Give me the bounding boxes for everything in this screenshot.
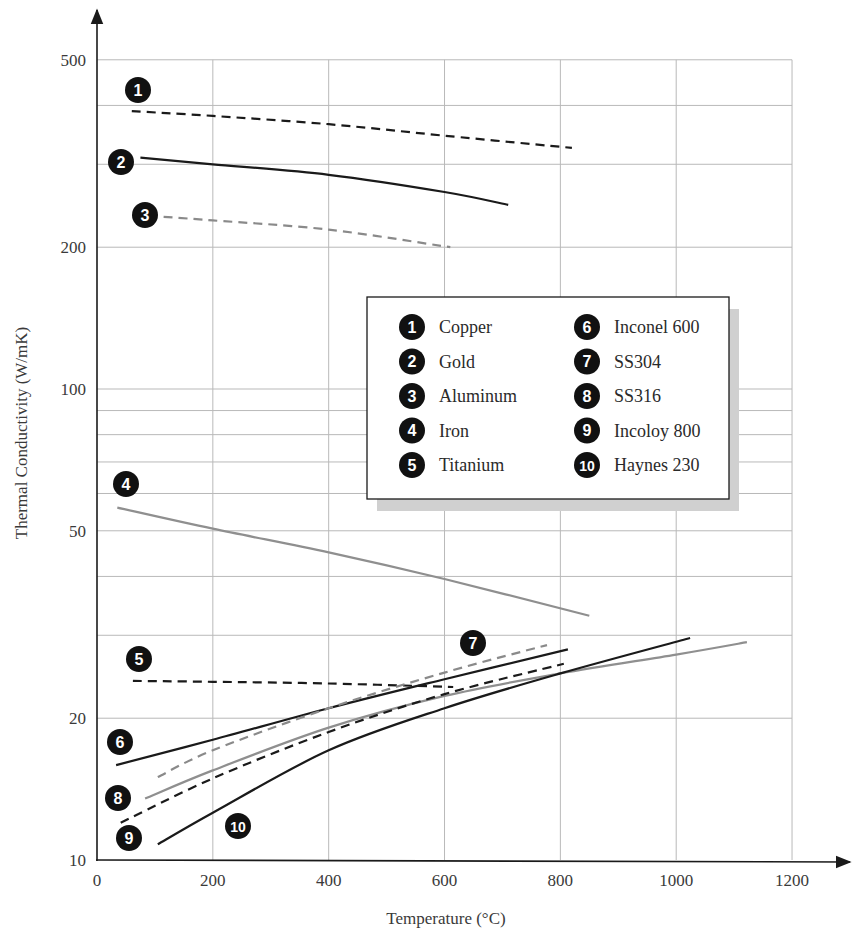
x-tick-label: 600: [432, 871, 458, 890]
x-axis: [96, 860, 850, 862]
legend-badge-4: 4: [399, 418, 425, 444]
x-tick-labels: 020040060080010001200: [93, 871, 809, 890]
series-line-incoloy-800: [121, 664, 564, 823]
y-tick-label: 20: [69, 709, 86, 728]
series-badge-2: 2: [108, 149, 134, 175]
legend-label: Titanium: [439, 455, 504, 475]
y-tick-labels: 102050100200500: [61, 51, 87, 870]
badge-number: 3: [408, 388, 417, 405]
legend-badge-3: 3: [399, 383, 425, 409]
badge-number: 4: [408, 422, 417, 439]
legend-item: 7SS304: [574, 349, 661, 375]
legend-badge-2: 2: [399, 349, 425, 375]
series-badge-8: 8: [105, 785, 131, 811]
badge-number: 3: [141, 207, 150, 224]
badge-number: 6: [116, 734, 125, 751]
badge-number: 7: [469, 635, 478, 652]
y-tick-label: 100: [61, 380, 87, 399]
series-badge-5: 5: [126, 646, 152, 672]
x-tick-label: 200: [200, 871, 226, 890]
badge-number: 2: [117, 154, 126, 171]
badge-number: 7: [583, 353, 592, 370]
series-line-inconel-600: [116, 649, 568, 765]
legend-label: Gold: [439, 352, 475, 372]
legend-item: 5Titanium: [399, 452, 504, 478]
legend-label: Aluminum: [439, 386, 517, 406]
legend-badge-8: 8: [574, 383, 600, 409]
badge-number: 5: [408, 457, 417, 474]
x-tick-label: 0: [93, 871, 102, 890]
x-tick-label: 1200: [775, 871, 809, 890]
x-tick-label: 400: [316, 871, 342, 890]
x-tick-label: 800: [548, 871, 574, 890]
series-badge-6: 6: [107, 729, 133, 755]
badge-number: 10: [230, 819, 246, 835]
series-line-ss304: [158, 645, 547, 777]
series-badge-1: 1: [125, 77, 151, 103]
series-line-titanium: [133, 681, 453, 687]
legend-item: 8SS316: [574, 383, 661, 409]
legend-badge-5: 5: [399, 452, 425, 478]
legend-label: Incoloy 800: [614, 421, 700, 441]
legend-item: 6Inconel 600: [574, 314, 699, 340]
legend-label: Inconel 600: [614, 317, 699, 337]
legend-item: 3Aluminum: [399, 383, 517, 409]
y-axis-title: Thermal Conductivity (W/mK): [12, 327, 31, 539]
series-line-iron: [117, 508, 589, 616]
series-line-aluminum: [164, 217, 451, 247]
x-tick-label: 1000: [659, 871, 693, 890]
series-line-copper: [132, 111, 572, 148]
series-badge-7: 7: [460, 630, 486, 656]
badge-number: 9: [125, 830, 134, 847]
badge-number: 6: [583, 319, 592, 336]
legend-badge-1: 1: [399, 314, 425, 340]
badge-number: 2: [408, 353, 417, 370]
legend-badge-6: 6: [574, 314, 600, 340]
badge-number: 8: [114, 790, 123, 807]
legend-label: Iron: [439, 421, 469, 441]
legend-badge-9: 9: [574, 418, 600, 444]
y-tick-label: 50: [69, 522, 86, 541]
badge-number: 5: [135, 651, 144, 668]
legend: 1Copper2Gold3Aluminum4Iron5Titanium6Inco…: [367, 297, 739, 511]
legend-item: 9Incoloy 800: [574, 418, 700, 444]
legend-label: SS316: [614, 386, 661, 406]
badge-number: 4: [122, 476, 131, 493]
legend-item: 1Copper: [399, 314, 492, 340]
y-tick-label: 500: [61, 51, 87, 70]
series-badge-9: 9: [116, 825, 142, 851]
series-badge-10: 10: [225, 813, 251, 839]
series-line-ss316: [145, 642, 747, 798]
badge-number: 9: [583, 422, 592, 439]
badge-number: 8: [583, 388, 592, 405]
badge-number: 1: [134, 82, 143, 99]
series-badge-3: 3: [132, 202, 158, 228]
y-tick-label: 200: [61, 238, 87, 257]
legend-item: 10Haynes 230: [574, 452, 699, 478]
legend-badge-10: 10: [574, 452, 600, 478]
x-axis-title: Temperature (°C): [386, 909, 505, 928]
thermal-conductivity-chart: 020040060080010001200 102050100200500 Te…: [0, 0, 854, 932]
badge-number: 1: [408, 319, 417, 336]
badge-number: 10: [579, 458, 595, 474]
legend-label: Haynes 230: [614, 455, 699, 475]
legend-label: SS304: [614, 352, 661, 372]
legend-badge-7: 7: [574, 349, 600, 375]
y-tick-label: 10: [69, 851, 86, 870]
series-badge-4: 4: [113, 471, 139, 497]
legend-label: Copper: [439, 317, 492, 337]
